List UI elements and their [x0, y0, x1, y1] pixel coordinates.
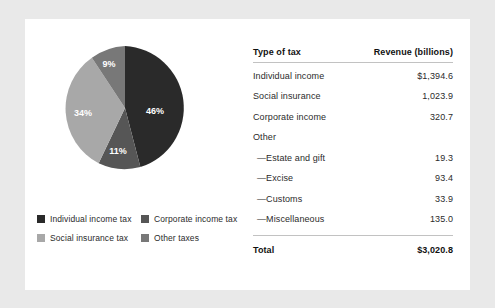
legend-item-social-insurance-tax: Social insurance tax: [37, 233, 141, 243]
legend-label-other-taxes: Other taxes: [154, 233, 199, 243]
legend-label-social-insurance-tax: Social insurance tax: [50, 233, 128, 243]
table-row: Corporate income 320.7: [253, 104, 453, 125]
row-label-estate-and-gift: —Estate and gift: [253, 153, 325, 163]
row-label-customs: —Customs: [253, 194, 302, 204]
table-header-row: Type of tax Revenue (billions): [253, 47, 453, 63]
legend-label-corporate-income-tax: Corporate income tax: [154, 214, 237, 224]
figure-root: 46% 11% 34% 9% Individual income tax Cor…: [0, 0, 495, 308]
pie-label-other-taxes: 9%: [102, 59, 115, 69]
pie-label-individual-income: 46%: [146, 106, 164, 116]
table-row: —Excise 93.4: [253, 166, 453, 187]
table-row: —Customs 33.9: [253, 186, 453, 207]
row-label-total: Total: [253, 245, 274, 255]
tax-revenue-table: Type of tax Revenue (billions) Individua…: [253, 47, 453, 255]
table-row: Social insurance 1,023.9: [253, 84, 453, 105]
row-value-individual-income: $1,394.6: [417, 71, 453, 81]
row-label-excise: —Excise: [253, 173, 293, 183]
legend-item-corporate-income-tax: Corporate income tax: [141, 214, 249, 224]
table-header-revenue: Revenue (billions): [374, 47, 453, 57]
row-value-excise: 93.4: [435, 173, 453, 183]
table-total-row: Total $3,020.8: [253, 235, 453, 255]
row-label-social-insurance: Social insurance: [253, 91, 321, 101]
legend-swatch-icon-corporate-income-tax: [141, 215, 149, 223]
row-value-miscellaneous: 135.0: [430, 214, 453, 224]
row-label-individual-income: Individual income: [253, 71, 324, 81]
pie-label-corporate-income: 11%: [109, 146, 127, 156]
row-label-other: Other: [253, 132, 276, 142]
legend-swatch-icon-social-insurance-tax: [37, 234, 45, 242]
table-header-type-of-tax: Type of tax: [253, 47, 301, 57]
row-value-estate-and-gift: 19.3: [435, 153, 453, 163]
table-row: Individual income $1,394.6: [253, 63, 453, 84]
legend-swatch-icon-individual-income-tax: [37, 215, 45, 223]
legend-swatch-icon-other-taxes: [141, 234, 149, 242]
table-row: —Miscellaneous 135.0: [253, 207, 453, 228]
pie-label-social-insurance: 34%: [74, 108, 92, 118]
row-label-corporate-income: Corporate income: [253, 112, 326, 122]
figure-card: 46% 11% 34% 9% Individual income tax Cor…: [25, 19, 470, 290]
row-value-social-insurance: 1,023.9: [422, 91, 453, 101]
pie-chart: 46% 11% 34% 9%: [50, 33, 200, 183]
row-label-miscellaneous: —Miscellaneous: [253, 214, 324, 224]
row-value-customs: 33.9: [435, 194, 453, 204]
row-value-total: $3,020.8: [417, 245, 453, 255]
table-row: Other: [253, 125, 453, 146]
pie-legend: Individual income tax Corporate income t…: [37, 214, 253, 243]
table-row: —Estate and gift 19.3: [253, 145, 453, 166]
pie-chart-panel: 46% 11% 34% 9% Individual income tax Cor…: [30, 24, 250, 282]
legend-item-other-taxes: Other taxes: [141, 233, 249, 243]
legend-label-individual-income-tax: Individual income tax: [50, 214, 131, 224]
legend-item-individual-income-tax: Individual income tax: [37, 214, 141, 224]
row-value-corporate-income: 320.7: [430, 112, 453, 122]
